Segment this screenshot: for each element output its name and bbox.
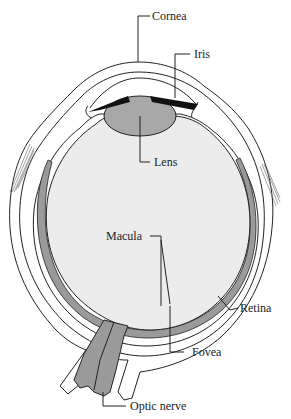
label-macula: Macula: [106, 229, 143, 243]
label-cornea: Cornea: [152, 9, 187, 23]
label-lens: Lens: [154, 155, 178, 169]
label-fovea: Fovea: [192, 345, 222, 359]
label-iris: Iris: [194, 47, 210, 61]
label-optic-nerve: Optic nerve: [130, 399, 186, 413]
eye-diagram: Cornea Iris Lens Macula Retina Fovea Opt…: [0, 0, 291, 419]
label-retina: Retina: [240, 301, 272, 315]
